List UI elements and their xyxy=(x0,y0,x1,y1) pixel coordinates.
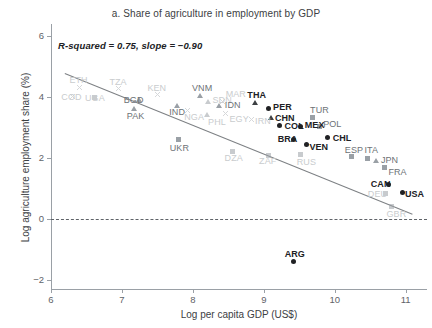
point-label-egy: EGY xyxy=(230,114,249,124)
marker-x-icon xyxy=(249,117,254,122)
x-axis-line xyxy=(51,289,427,290)
scatter-chart: a. Share of agriculture in employment by… xyxy=(0,0,432,328)
x-tick-mark xyxy=(335,289,336,293)
y-axis-line xyxy=(51,24,52,289)
point-label-zaf: ZAF xyxy=(259,156,276,166)
x-tick-mark xyxy=(264,289,265,293)
point-label-mar: MAR xyxy=(226,89,246,99)
x-tick-label: 8 xyxy=(178,294,208,305)
point-label-nga: NGA xyxy=(184,112,204,122)
point-label-ind: IND xyxy=(169,107,185,117)
marker-x-icon xyxy=(77,85,82,90)
x-tick-label: 10 xyxy=(320,294,350,305)
x-axis-label: Log per capita GDP (US$) xyxy=(51,309,427,320)
x-tick-label: 6 xyxy=(36,294,66,305)
marker-x-icon xyxy=(116,86,121,91)
point-label-ita: ITA xyxy=(364,145,378,155)
point-label-esp: ESP xyxy=(345,145,363,155)
marker-triangle-icon xyxy=(197,93,203,98)
point-label-rus: RUS xyxy=(297,157,316,167)
point-label-pol: POL xyxy=(323,119,341,129)
point-label-tur: TUR xyxy=(310,105,329,115)
point-label-col: COL xyxy=(284,121,303,131)
marker-square-icon xyxy=(365,156,370,161)
x-tick-mark xyxy=(122,289,123,293)
marker-circle-icon xyxy=(325,135,330,140)
marker-triangle-icon xyxy=(373,158,379,163)
marker-circle-icon xyxy=(266,106,271,111)
point-label-cod: COD xyxy=(61,92,81,102)
point-label-irn: IRN xyxy=(255,116,271,126)
point-label-gbr: GBR xyxy=(387,209,407,219)
point-label-uga: UGA xyxy=(85,93,105,103)
marker-circle-icon xyxy=(291,259,296,264)
x-tick-mark xyxy=(51,289,52,293)
point-label-fra: FRA xyxy=(388,167,406,177)
y-tick-mark xyxy=(47,158,51,159)
x-tick-mark xyxy=(406,289,407,293)
point-label-ukr: UKR xyxy=(170,143,189,153)
marker-triangle-icon xyxy=(252,100,258,105)
point-label-idn: IDN xyxy=(225,100,241,110)
x-tick-label: 9 xyxy=(249,294,279,305)
marker-square-icon xyxy=(176,137,181,142)
point-label-bra: BRA xyxy=(278,134,298,144)
marker-triangle-icon xyxy=(205,99,211,104)
marker-x-icon xyxy=(155,92,160,97)
point-label-chl: CHL xyxy=(333,133,352,143)
point-label-ken: KEN xyxy=(147,83,166,93)
point-label-vnm: VNM xyxy=(192,83,212,93)
point-label-ven: VEN xyxy=(309,142,328,152)
point-label-per: PER xyxy=(273,102,292,112)
marker-circle-icon xyxy=(304,142,309,147)
point-label-dza: DZA xyxy=(225,153,243,163)
y-tick-mark xyxy=(47,36,51,37)
marker-circle-icon xyxy=(277,123,282,128)
point-label-bgd: BGD xyxy=(124,95,144,105)
point-label-usa: USA xyxy=(405,189,424,199)
zero-reference-line xyxy=(51,219,427,220)
marker-square-icon xyxy=(349,154,354,159)
y-axis-label: Log agriculture employment share (%) xyxy=(20,15,31,301)
point-label-pak: PAK xyxy=(127,111,145,121)
point-label-can: CAN xyxy=(371,179,391,189)
point-label-deu: DEU xyxy=(368,189,387,199)
marker-square-icon xyxy=(382,165,387,170)
point-label-mex: MEX xyxy=(305,120,325,130)
marker-x-icon xyxy=(223,111,228,116)
y-tick-mark xyxy=(47,97,51,98)
point-label-phl: PHL xyxy=(208,117,226,127)
chart-title: a. Share of agriculture in employment by… xyxy=(0,8,432,19)
y-tick-mark xyxy=(47,280,51,281)
regression-annotation: R-squared = 0.75, slope = −0.90 xyxy=(58,40,202,51)
x-tick-mark xyxy=(193,289,194,293)
point-label-arg: ARG xyxy=(285,249,305,259)
x-tick-label: 7 xyxy=(107,294,137,305)
point-label-tza: TZA xyxy=(109,77,126,87)
point-label-jpn: JPN xyxy=(381,155,398,165)
x-tick-label: 11 xyxy=(391,294,421,305)
point-label-eth: ETH xyxy=(69,75,87,85)
point-label-tha: THA xyxy=(247,90,266,100)
